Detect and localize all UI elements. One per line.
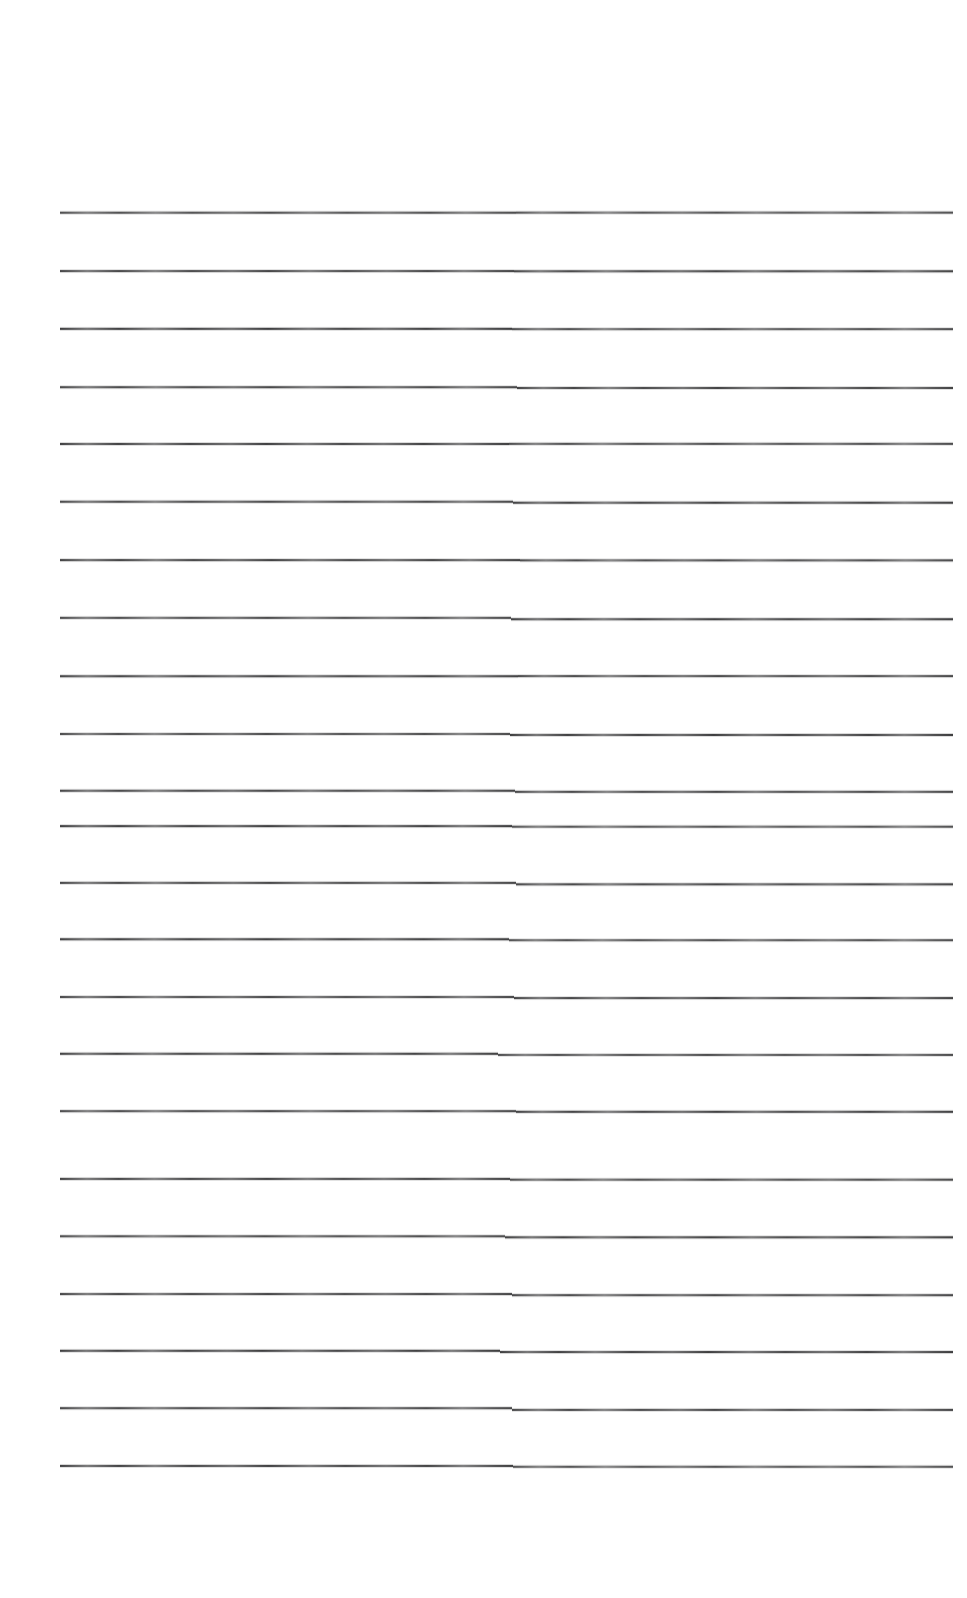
ruled-line-segment-left — [60, 1178, 510, 1180]
ruled-writing-area — [0, 0, 967, 1598]
ruled-line-segment-right — [511, 618, 953, 620]
ruled-line-segment-right — [498, 1054, 953, 1056]
ruled-line — [0, 1233, 967, 1239]
ruled-line — [0, 1176, 967, 1182]
ruled-line — [0, 557, 967, 563]
ruled-line — [0, 384, 967, 390]
ruled-line — [0, 268, 967, 274]
scanned-page — [0, 0, 967, 1598]
ruled-line — [0, 615, 967, 621]
ruled-line-segment-right — [513, 501, 953, 503]
ruled-line — [0, 880, 967, 886]
ruled-line-segment-right — [516, 1110, 953, 1112]
ruled-line-segment-right — [520, 559, 953, 561]
ruled-line-segment-left — [60, 501, 513, 503]
ruled-line — [0, 731, 967, 737]
ruled-line-segment-left — [60, 882, 516, 884]
ruled-line — [0, 1291, 967, 1297]
ruled-line-segment-right — [510, 1179, 953, 1181]
ruled-line-segment-left — [60, 1053, 498, 1055]
ruled-line — [0, 936, 967, 942]
ruled-line-segment-right — [514, 997, 953, 999]
ruled-line-segment-right — [505, 1236, 953, 1238]
ruled-line-segment-left — [60, 559, 520, 561]
ruled-line-segment-right — [518, 675, 953, 677]
ruled-line-segment-right — [514, 270, 953, 272]
ruled-line-segment-left — [60, 1235, 505, 1237]
ruled-line-segment-left — [60, 1350, 500, 1352]
ruled-line — [0, 823, 967, 829]
ruled-line-segment-right — [512, 826, 953, 828]
ruled-line — [0, 1051, 967, 1057]
ruled-line — [0, 994, 967, 1000]
ruled-line — [0, 1405, 967, 1411]
ruled-line-segment-right — [509, 939, 953, 941]
ruled-line-segment-left — [60, 825, 512, 827]
ruled-line-segment-right — [509, 443, 953, 445]
ruled-line-segment-right — [517, 387, 953, 389]
ruled-line-segment-left — [60, 386, 517, 388]
ruled-line-segment-right — [512, 1408, 953, 1410]
ruled-line-segment-right — [510, 733, 953, 735]
bottom-blank-margin — [0, 1467, 967, 1598]
ruled-line-segment-left — [60, 996, 514, 998]
ruled-line-segment-left — [60, 1110, 516, 1112]
ruled-line-segment-right — [515, 791, 953, 793]
ruled-line — [0, 1348, 967, 1354]
ruled-line-segment-right — [512, 1294, 953, 1296]
ruled-line — [0, 1108, 967, 1114]
ruled-line-segment-right — [516, 212, 953, 214]
ruled-line — [0, 788, 967, 794]
ruled-line-segment-left — [60, 212, 516, 214]
ruled-line-segment-right — [500, 1351, 953, 1353]
ruled-line-segment-right — [516, 883, 953, 885]
ruled-line-segment-left — [60, 1293, 512, 1295]
ruled-line-segment-left — [60, 443, 509, 445]
ruled-line-segment-left — [60, 790, 515, 792]
ruled-line-segment-left — [60, 733, 510, 735]
ruled-line — [0, 326, 967, 332]
ruled-line-segment-left — [60, 328, 512, 330]
ruled-line-segment-left — [60, 938, 509, 940]
ruled-line-segment-left — [60, 617, 511, 619]
ruled-line — [0, 673, 967, 679]
ruled-line-segment-left — [60, 675, 518, 677]
ruled-line-segment-right — [512, 328, 953, 330]
ruled-line-segment-left — [60, 1407, 512, 1409]
ruled-line — [0, 441, 967, 447]
ruled-line — [0, 210, 967, 216]
ruled-line — [0, 499, 967, 505]
ruled-line-segment-left — [60, 270, 514, 272]
